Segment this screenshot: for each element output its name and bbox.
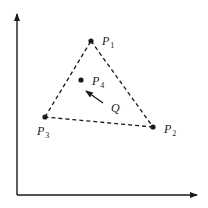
point-p2 [150,124,155,129]
label-p3: P3 [36,124,49,140]
label-p4: P4 [91,74,104,90]
points-group: P1P2P3P4 [36,34,176,140]
point-p1 [88,38,93,43]
label-p2: P2 [163,122,176,138]
point-p3 [42,114,47,119]
diagram-canvas: P1P2P3P4 Q [0,0,208,208]
edge-p3-p1 [45,41,91,117]
query-arrow [86,91,103,103]
edge-p2-p3 [45,117,153,127]
label-p1: P1 [101,34,114,50]
point-p4 [78,77,83,82]
query-label: Q [111,101,120,115]
diagram-svg: P1P2P3P4 Q [0,0,208,208]
